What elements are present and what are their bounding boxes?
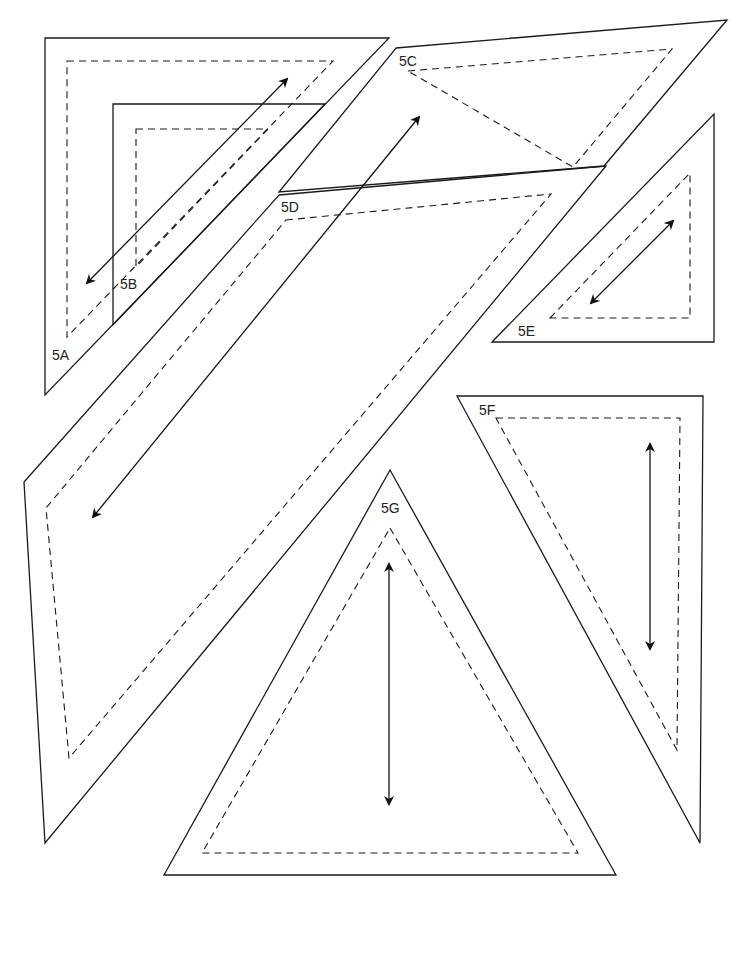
seam-line	[202, 528, 578, 853]
seam-line	[408, 49, 672, 167]
seam-line	[496, 418, 680, 750]
pattern-piece-5c: 5C	[93, 20, 727, 517]
cut-line	[279, 20, 727, 192]
piece-label: 5F	[479, 402, 495, 418]
seam-line	[550, 173, 690, 318]
piece-label: 5B	[120, 276, 137, 292]
pattern-piece-5e: 5E	[492, 114, 714, 342]
grainline-arrow-icon	[591, 221, 673, 303]
pattern-piece-5g: 5G	[164, 470, 616, 875]
piece-label: 5D	[281, 199, 299, 215]
cut-line	[24, 166, 606, 843]
cut-line	[457, 396, 703, 843]
cut-line	[492, 114, 714, 342]
pattern-layout-canvas: 5A5B5C5D5E5F5G	[0, 0, 751, 968]
piece-label: 5E	[518, 323, 535, 339]
grainline-arrow-icon	[93, 117, 419, 517]
piece-label: 5G	[381, 500, 400, 516]
pattern-pieces: 5A5B5C5D5E5F5G	[24, 20, 727, 875]
grainline-arrow-icon	[87, 79, 287, 283]
pattern-piece-5d: 5D	[24, 166, 606, 843]
cut-line	[164, 470, 616, 875]
seam-line	[136, 129, 268, 267]
pattern-piece-5f: 5F	[457, 396, 703, 843]
piece-label: 5A	[52, 347, 70, 363]
piece-label: 5C	[399, 53, 417, 69]
